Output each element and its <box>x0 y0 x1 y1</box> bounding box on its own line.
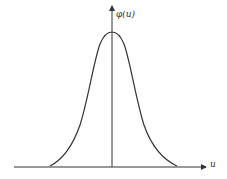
bell-curve <box>50 32 177 166</box>
bell-curve-figure: φ(u) u <box>0 0 227 179</box>
plot-canvas <box>0 0 227 179</box>
y-axis-label: φ(u) <box>116 10 135 19</box>
x-axis-label: u <box>210 160 216 169</box>
